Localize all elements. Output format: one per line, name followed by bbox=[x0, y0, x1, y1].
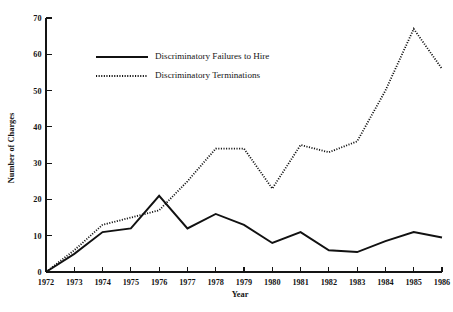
x-axis-tick-label: 1973 bbox=[66, 278, 82, 287]
x-axis-tick-label: 1986 bbox=[434, 278, 450, 287]
legend-label-terminations: Discriminatory Terminations bbox=[155, 70, 260, 80]
chart-figure: 010203040506070 197219731974197519761977… bbox=[0, 0, 453, 312]
x-axis-tick-label: 1978 bbox=[208, 278, 224, 287]
x-axis-tick-label: 1977 bbox=[179, 278, 195, 287]
y-axis-tick-label: 10 bbox=[33, 232, 41, 241]
series-line-terminations bbox=[46, 29, 442, 272]
x-axis-tick-label: 1976 bbox=[151, 278, 167, 287]
y-axis-tick-label: 40 bbox=[33, 123, 41, 132]
x-axis-tick-label: 1985 bbox=[406, 278, 422, 287]
y-axis-tick-label: 30 bbox=[33, 159, 41, 168]
line-chart: 010203040506070 197219731974197519761977… bbox=[0, 0, 453, 312]
x-axis-tick-label: 1981 bbox=[292, 278, 308, 287]
series-line-failures-to-hire bbox=[46, 196, 442, 272]
x-axis-tick-label: 1984 bbox=[377, 278, 393, 287]
y-axis-tick-label: 50 bbox=[33, 87, 41, 96]
x-axis-tick-group bbox=[46, 267, 442, 272]
x-axis-title: Year bbox=[232, 290, 249, 299]
y-axis-tick-label: 70 bbox=[33, 14, 41, 23]
x-axis-tick-label: 1982 bbox=[321, 278, 337, 287]
data-series-group bbox=[46, 29, 442, 272]
x-axis-tick-label: 1972 bbox=[38, 278, 54, 287]
x-axis-tick-label: 1974 bbox=[94, 278, 110, 287]
x-axis-tick-label: 1980 bbox=[264, 278, 280, 287]
x-axis-tick-label: 1975 bbox=[123, 278, 139, 287]
legend-label-failures-to-hire: Discriminatory Failures to Hire bbox=[155, 51, 269, 61]
y-axis-title: Number of Charges bbox=[7, 112, 16, 183]
y-axis-tick-label: 20 bbox=[33, 195, 41, 204]
x-axis-tick-label: 1983 bbox=[349, 278, 365, 287]
y-axis-tick-group bbox=[46, 18, 52, 272]
x-axis-tick-labels: 1972197319741975197619771978197919801981… bbox=[38, 278, 450, 287]
chart-legend: Discriminatory Failures to HireDiscrimin… bbox=[96, 51, 269, 80]
x-axis-tick-label: 1979 bbox=[236, 278, 252, 287]
y-axis-tick-label: 60 bbox=[33, 50, 41, 59]
y-axis-tick-labels: 010203040506070 bbox=[33, 14, 41, 277]
y-axis-tick-label: 0 bbox=[37, 268, 41, 277]
